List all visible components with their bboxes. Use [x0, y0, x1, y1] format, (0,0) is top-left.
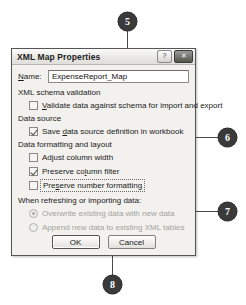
checkbox-save-data-source[interactable]	[29, 127, 38, 136]
checkbox-row-adjust-column-width[interactable]: Adjust column width	[29, 151, 189, 163]
close-icon[interactable]: ✕	[174, 50, 193, 63]
label-rest: ust column width	[54, 153, 114, 162]
callout-marker-7: 7	[218, 202, 237, 221]
callout-marker-6: 6	[218, 128, 237, 147]
name-input[interactable]: ExpenseReport_Map	[48, 70, 189, 83]
checkbox-row-save-data-source[interactable]: Save data source definition in workbook	[29, 125, 189, 137]
name-label-rest: ame:	[24, 72, 42, 81]
label-pre: Pre	[43, 181, 55, 190]
name-row: Name: ExpenseReport_Map	[18, 70, 189, 83]
dialog-titlebar[interactable]: XML Map Properties ? ✕	[12, 49, 195, 65]
label-rest: alidate data against schema for import a…	[47, 101, 223, 110]
label-pre: Save	[42, 127, 62, 136]
help-icon[interactable]: ?	[157, 50, 172, 63]
radio-label-append-new-data: Append new data to existing XML tables	[42, 223, 184, 232]
checkbox-label-adjust-column-width: Adjust column width	[42, 153, 113, 162]
checkbox-label-preserve-column-filter: Preserve column filter	[42, 167, 119, 176]
checkbox-adjust-column-width[interactable]	[29, 153, 38, 162]
radio-row-overwrite-existing-data[interactable]: Overwrite existing data with new data	[29, 207, 189, 219]
checkbox-row-validate-data[interactable]: Validate data against schema for import …	[29, 99, 189, 111]
label-rest: ata source definition in workbook	[67, 127, 184, 136]
checkbox-preserve-column-filter[interactable]	[29, 167, 38, 176]
group-label-data-source: Data source	[18, 114, 189, 123]
checkbox-label-validate-data: Validate data against schema for import …	[42, 101, 222, 110]
label-rest: erve number formatting	[59, 181, 142, 190]
dialog-button-row: OK Cancel	[12, 235, 195, 249]
callout-leader-6	[193, 137, 219, 138]
checkbox-validate-data[interactable]	[29, 101, 38, 110]
label-rest: umn filter	[86, 167, 119, 176]
callout-marker-8: 8	[103, 275, 122, 294]
label-pre: Ad	[42, 153, 52, 162]
checkbox-label-preserve-number-formatting: Preserve number formatting	[42, 181, 143, 190]
group-label-when-refreshing: When refreshing or importing data:	[18, 196, 189, 205]
xml-map-properties-dialog: XML Map Properties ? ✕ Name: ExpenseRepo…	[11, 48, 196, 256]
label-pre: Preserve co	[42, 167, 85, 176]
radio-row-append-new-data[interactable]: Append new data to existing XML tables	[29, 221, 189, 233]
radio-overwrite-existing-data[interactable]	[29, 209, 38, 218]
checkbox-row-preserve-column-filter[interactable]: Preserve column filter	[29, 165, 189, 177]
checkbox-row-preserve-number-formatting[interactable]: Preserve number formatting	[29, 179, 189, 191]
radio-append-new-data[interactable]	[29, 223, 38, 232]
callout-marker-5: 5	[118, 12, 137, 31]
ok-button[interactable]: OK	[52, 235, 100, 249]
group-label-xml-schema-validation: XML schema validation	[18, 88, 189, 97]
checkbox-label-save-data-source: Save data source definition in workbook	[42, 127, 183, 136]
cancel-button[interactable]: Cancel	[108, 235, 156, 249]
dialog-body: Name: ExpenseReport_Map XML schema valid…	[12, 65, 195, 255]
name-label: Name:	[18, 72, 48, 81]
checkbox-preserve-number-formatting[interactable]	[29, 181, 38, 190]
radio-label-overwrite-existing-data: Overwrite existing data with new data	[42, 209, 175, 218]
dialog-title: XML Map Properties	[17, 52, 155, 62]
group-label-data-formatting: Data formatting and layout	[18, 140, 189, 149]
